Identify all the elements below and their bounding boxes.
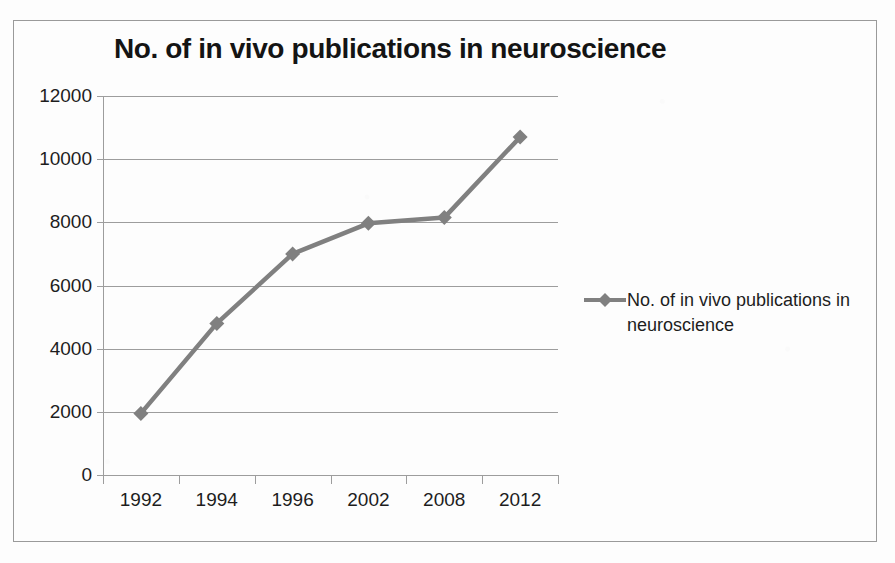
y-axis-tick-mark (97, 159, 104, 160)
y-axis-tick-mark (97, 286, 104, 287)
x-axis-tick-label: 1992 (120, 489, 162, 511)
x-axis-tick-mark (103, 476, 104, 484)
x-axis-tick-mark (331, 476, 332, 484)
y-axis-tick-mark (97, 349, 104, 350)
chart-legend: No. of in vivo publications in neuroscie… (583, 288, 873, 338)
y-axis-tick-mark (97, 412, 104, 413)
series-line (141, 137, 520, 413)
x-axis-tick-mark (558, 476, 559, 484)
x-axis-tick-mark (406, 476, 407, 484)
y-axis-tick-mark (97, 222, 104, 223)
x-axis-tick-mark (482, 476, 483, 484)
legend-series-marker (583, 289, 627, 311)
x-axis-tick-mark (179, 476, 180, 484)
x-axis-tick-label: 2012 (499, 489, 541, 511)
y-axis-tick-mark (97, 96, 104, 97)
x-axis-tick-label: 2002 (347, 489, 389, 511)
x-axis-tick-label: 1994 (196, 489, 238, 511)
series-line-chart (0, 0, 895, 563)
chart-screenshot: No. of in vivo publications in neuroscie… (0, 0, 895, 563)
x-axis-tick-mark (255, 476, 256, 484)
x-axis-tick-label: 1996 (271, 489, 313, 511)
data-point-marker (361, 216, 376, 231)
x-axis-tick-label: 2008 (423, 489, 465, 511)
legend-item-label: No. of in vivo publications in neuroscie… (627, 288, 867, 338)
